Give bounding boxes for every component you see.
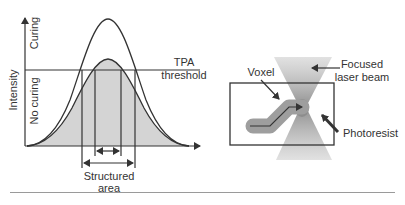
focused-beam-label-line2: laser beam <box>335 71 389 83</box>
photoresist-label: Photoresist <box>343 127 398 139</box>
curing-label: Curing <box>28 17 40 49</box>
voxel-writing-diagram: Voxel Focused laser beam Photoresist <box>230 57 398 160</box>
voxel-label: Voxel <box>248 66 275 78</box>
threshold-label-line1: TPA <box>174 56 195 68</box>
bottom-divider <box>10 192 395 193</box>
threshold-label-line2: threshold <box>161 69 206 81</box>
focused-beam-label-line1: Focused <box>341 58 383 70</box>
no-curing-label: No curing <box>28 77 40 124</box>
photoresist-leader-arrow <box>322 115 338 132</box>
tpa-diagram: Intensity Curing No curing TPA threshold… <box>0 0 405 205</box>
y-axis-label: Intensity <box>7 69 19 110</box>
intensity-chart: Intensity Curing No curing TPA threshold… <box>7 17 207 194</box>
structured-area-label-line1: Structured <box>84 170 135 182</box>
